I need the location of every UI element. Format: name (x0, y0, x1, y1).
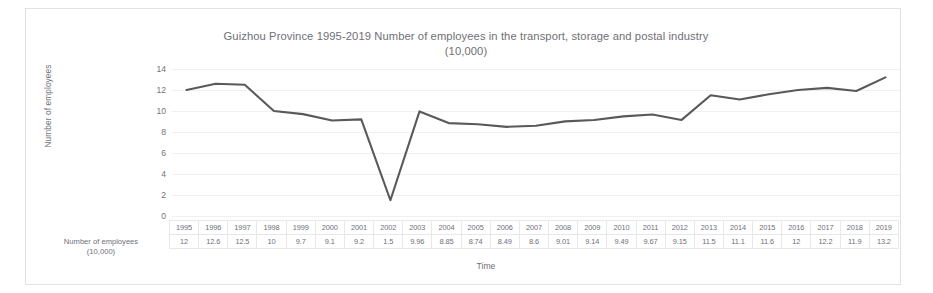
table-cell-year: 2003 (403, 221, 432, 235)
x-axis-title: Time (426, 261, 546, 271)
table-cell-year: 1999 (286, 221, 315, 235)
table-cell-value: 11.6 (753, 235, 782, 249)
table-cell-value: 9.2 (344, 235, 373, 249)
table-row-years: 1995199619971998199920002001200220032004… (170, 221, 899, 235)
table-cell-value: 9.14 (578, 235, 607, 249)
table-cell-value: 9.7 (286, 235, 315, 249)
table-cell-value: 12.5 (228, 235, 257, 249)
table-cell-value: 11.5 (694, 235, 723, 249)
table-cell-value: 9.15 (665, 235, 694, 249)
table-cell-year: 2015 (753, 221, 782, 235)
table-row-header-label: Number of employees (10,000) (34, 237, 168, 256)
table-cell-value: 11.1 (723, 235, 752, 249)
table-cell-value: 10 (257, 235, 286, 249)
table-cell-year: 2006 (490, 221, 519, 235)
table-row-values: 1212.612.5109.79.19.21.59.968.858.748.49… (170, 235, 899, 249)
table-cell-year: 1998 (257, 221, 286, 235)
table-cell-year: 2010 (607, 221, 636, 235)
table-cell-value: 9.49 (607, 235, 636, 249)
table-cell-value: 8.49 (490, 235, 519, 249)
table-cell-year: 2002 (374, 221, 403, 235)
data-table: 1995199619971998199920002001200220032004… (169, 220, 899, 249)
table-cell-year: 2016 (782, 221, 811, 235)
table-cell-value: 13.2 (869, 235, 898, 249)
table-cell-year: 2001 (344, 221, 373, 235)
table-cell-value: 8.6 (519, 235, 548, 249)
table-cell-year: 2014 (723, 221, 752, 235)
table-cell-value: 9.01 (549, 235, 578, 249)
table-cell-year: 2005 (461, 221, 490, 235)
table-cell-value: 12.2 (811, 235, 840, 249)
table-cell-value: 9.96 (403, 235, 432, 249)
table-cell-year: 2008 (549, 221, 578, 235)
table-cell-value: 8.74 (461, 235, 490, 249)
table-cell-year: 2018 (840, 221, 869, 235)
table-cell-value: 12 (782, 235, 811, 249)
table-row-header-line-1: Number of employees (64, 237, 138, 246)
table-cell-year: 2009 (578, 221, 607, 235)
table-cell-year: 1997 (228, 221, 257, 235)
line-series-employees (187, 77, 886, 200)
table-cell-year: 1995 (170, 221, 199, 235)
table-cell-year: 1996 (199, 221, 228, 235)
table-cell-value: 9.1 (315, 235, 344, 249)
table-cell-value: 9.67 (636, 235, 665, 249)
table-cell-value: 1.5 (374, 235, 403, 249)
table-cell-year: 2013 (694, 221, 723, 235)
table-cell-value: 8.85 (432, 235, 461, 249)
table-cell-value: 12.6 (199, 235, 228, 249)
table-row-header-line-2: (10,000) (87, 247, 115, 256)
table-cell-year: 2000 (315, 221, 344, 235)
table-cell-year: 2017 (811, 221, 840, 235)
table-cell-year: 2004 (432, 221, 461, 235)
table-cell-year: 2012 (665, 221, 694, 235)
table-cell-value: 12 (170, 235, 199, 249)
table-cell-year: 2007 (519, 221, 548, 235)
table-cell-year: 2019 (869, 221, 898, 235)
table-cell-value: 11.9 (840, 235, 869, 249)
chart-figure: Guizhou Province 1995-2019 Number of emp… (25, 8, 901, 285)
table-cell-year: 2011 (636, 221, 665, 235)
